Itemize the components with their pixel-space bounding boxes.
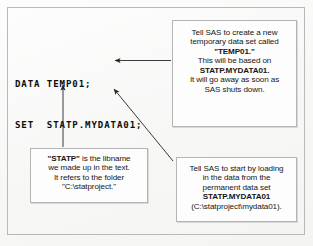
callout-libname-explanation: "STATP" is the libname we made up in the…	[30, 148, 148, 203]
callout-create-line-7: SAS shuts down.	[177, 85, 292, 94]
callout-libname-libname-token: "STATP"	[48, 154, 80, 163]
callout-create-line-1: Tell SAS to create a new	[177, 28, 292, 37]
callout-libname-line-1-rest: is the libname	[80, 154, 131, 163]
callout-load-line-3: permanent data set	[180, 183, 293, 192]
callout-libname-line-1: "STATP" is the libname	[34, 154, 144, 163]
callout-create-line-2: temporary data set called	[177, 37, 292, 46]
callout-load-line-2: in the data from the	[180, 173, 293, 182]
callout-load-permanent-dataset: Tell SAS to start by loading in the data…	[176, 157, 297, 222]
callout-load-line-5: (C:\statproject\mydata01).	[180, 202, 293, 211]
callout-create-line-5: STATP.MYDATA01.	[177, 66, 292, 75]
sas-code-annotation-figure: DATA TEMP01; SET STATP.MYDATA01; Tell SA…	[0, 0, 313, 246]
callout-libname-line-3: It refers to the folder	[34, 173, 144, 182]
callout-create-line-6: It will go away as soon as	[177, 75, 292, 84]
callout-libname-line-4: "C:\statproject."	[34, 182, 144, 191]
callout-libname-line-2: we made up in the text.	[34, 163, 144, 172]
callout-create-temp-dataset: Tell SAS to create a new temporary data …	[172, 20, 297, 127]
callout-create-line-4: This will be based on	[177, 56, 292, 65]
callout-load-line-1: Tell SAS to start by loading	[180, 164, 293, 173]
callout-create-line-3: "TEMP01."	[177, 47, 292, 56]
callout-load-line-4: STATP.MYDATA01	[180, 192, 293, 201]
